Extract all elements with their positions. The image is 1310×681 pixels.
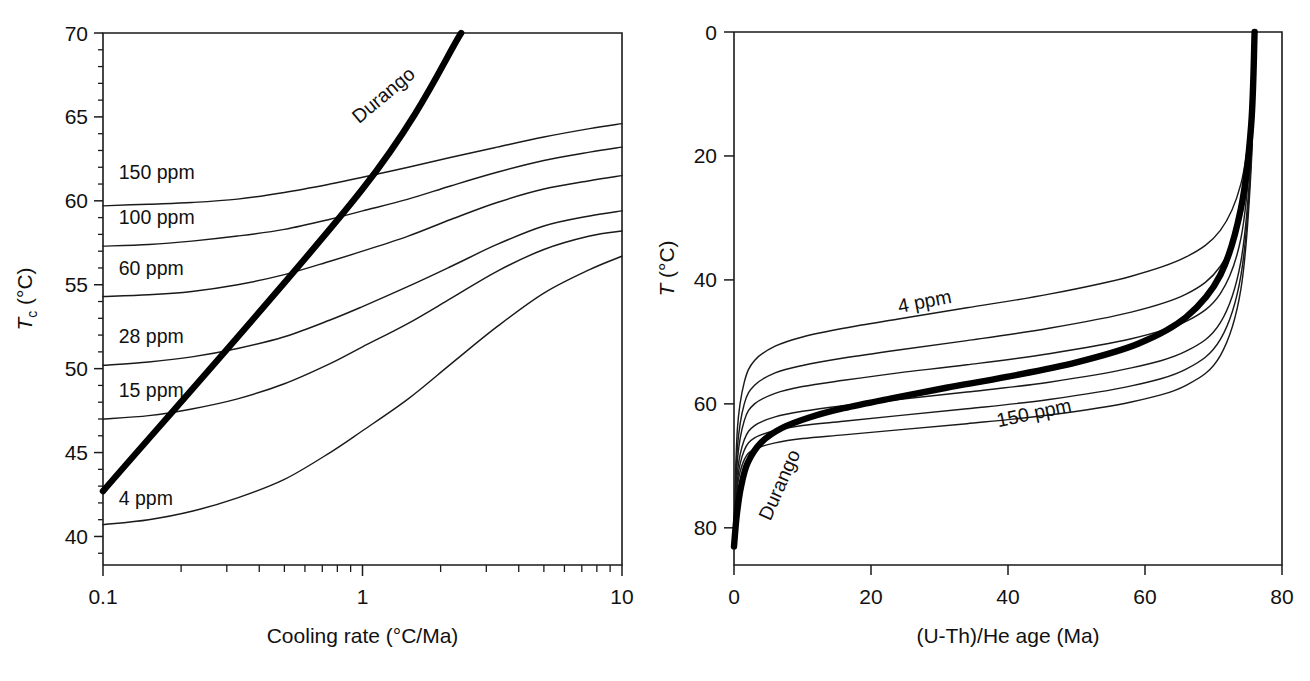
y-tick-label: 40 xyxy=(65,525,88,548)
left-panel-plot: 404550556065700.1110Cooling rate (°C/Ma)… xyxy=(0,0,660,681)
curve-label-150-ppm: 150 ppm xyxy=(995,394,1074,431)
y-tick-label: 45 xyxy=(65,441,88,464)
x-axis-label: (U-Th)/He age (Ma) xyxy=(916,624,1099,647)
y-tick-label: 80 xyxy=(694,516,717,539)
curve-label-60-ppm: 60 ppm xyxy=(119,257,184,279)
curve-4-ppm xyxy=(734,32,1255,528)
svg-text:Tc (°C): Tc (°C) xyxy=(13,267,40,330)
curve-label-100-ppm: 100 ppm xyxy=(119,206,195,228)
right-plot-frame xyxy=(734,32,1282,565)
y-axis-label: T (°C) xyxy=(655,240,678,296)
left-panel: 404550556065700.1110Cooling rate (°C/Ma)… xyxy=(0,0,660,681)
curve-label-durango: Durango xyxy=(347,62,419,127)
y-axis-label: Tc (°C) xyxy=(13,267,40,330)
right-panel-plot: 020406080020406080(U-Th)/He age (Ma)T (°… xyxy=(650,0,1310,681)
right-panel: 020406080020406080(U-Th)/He age (Ma)T (°… xyxy=(650,0,1310,681)
curve-15-ppm xyxy=(734,32,1255,531)
y-tick-label: 50 xyxy=(65,357,88,380)
y-tick-label: 20 xyxy=(694,144,717,167)
curve-label-4-ppm: 4 ppm xyxy=(119,487,173,509)
x-tick-label: 10 xyxy=(610,585,633,608)
y-tick-label: 0 xyxy=(705,21,717,44)
y-tick-label: 60 xyxy=(65,189,88,212)
curve-label-28-ppm: 28 ppm xyxy=(119,325,184,347)
curve-label-durango: Durango xyxy=(754,446,805,523)
y-tick-label: 65 xyxy=(65,105,88,128)
y-tick-label: 55 xyxy=(65,273,88,296)
curve-150-ppm xyxy=(734,32,1255,540)
curve-durango xyxy=(734,32,1255,546)
x-tick-label: 20 xyxy=(859,585,882,608)
curve-60-ppm xyxy=(734,32,1255,537)
x-axis-label: Cooling rate (°C/Ma) xyxy=(267,624,459,647)
x-tick-label: 60 xyxy=(1133,585,1156,608)
figure-container: 404550556065700.1110Cooling rate (°C/Ma)… xyxy=(0,0,1310,681)
curve-100-ppm xyxy=(734,32,1255,539)
y-tick-label: 40 xyxy=(694,268,717,291)
curve-28-ppm xyxy=(734,32,1255,534)
curve-label-15-ppm: 15 ppm xyxy=(119,379,184,401)
svg-text:T (°C): T (°C) xyxy=(655,240,678,296)
x-tick-label: 0.1 xyxy=(88,585,117,608)
x-tick-label: 80 xyxy=(1270,585,1293,608)
x-tick-label: 1 xyxy=(357,585,369,608)
x-tick-label: 0 xyxy=(728,585,740,608)
curve-label-150-ppm: 150 ppm xyxy=(119,161,195,183)
y-tick-label: 60 xyxy=(694,392,717,415)
y-tick-label: 70 xyxy=(65,22,88,45)
x-tick-label: 40 xyxy=(996,585,1019,608)
